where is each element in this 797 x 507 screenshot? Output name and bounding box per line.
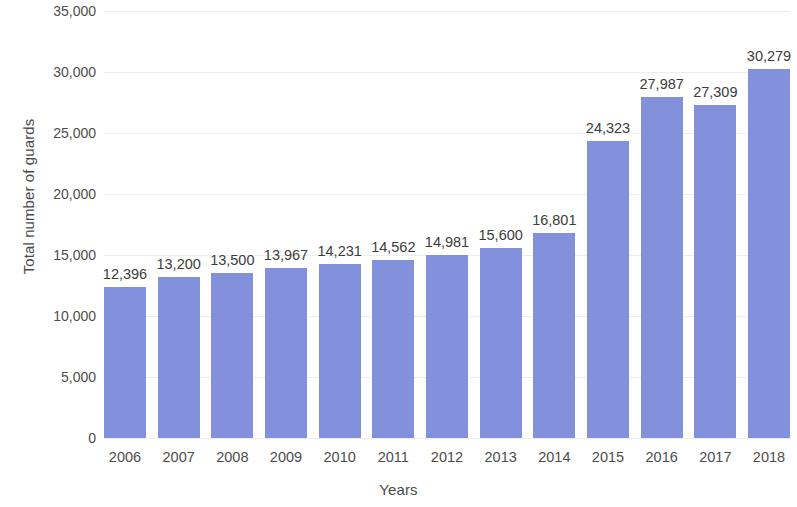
bar-column[interactable]: 14,231 (319, 264, 361, 438)
bar[interactable] (480, 248, 522, 438)
bar[interactable] (641, 97, 683, 438)
bar[interactable] (104, 287, 146, 438)
bar-value-label: 24,323 (573, 120, 643, 136)
y-axis-tick-label: 20,000 (8, 186, 96, 202)
bar-column[interactable]: 27,987 (641, 97, 683, 438)
bar[interactable] (319, 264, 361, 438)
bar[interactable] (158, 277, 200, 438)
bar[interactable] (694, 105, 736, 438)
bar[interactable] (211, 273, 253, 438)
bar-value-label: 30,279 (734, 48, 797, 64)
bar-column[interactable]: 13,967 (265, 268, 307, 438)
bar[interactable] (533, 233, 575, 438)
gridline (104, 438, 790, 439)
y-axis-tick-label: 35,000 (8, 3, 96, 19)
y-axis-tick-label: 5,000 (8, 369, 96, 385)
x-axis-title: Years (0, 481, 797, 498)
y-axis-tick-label: 30,000 (8, 64, 96, 80)
y-axis-tick-label: 15,000 (8, 247, 96, 263)
plot-area: 12,39613,20013,50013,96714,23114,56214,9… (104, 11, 790, 438)
bar-column[interactable]: 24,323 (587, 141, 629, 438)
bar-value-label: 27,309 (680, 84, 750, 100)
gridline (104, 72, 790, 73)
bar-column[interactable]: 14,981 (426, 255, 468, 438)
bar[interactable] (587, 141, 629, 438)
bar[interactable] (426, 255, 468, 438)
bar-column[interactable]: 12,396 (104, 287, 146, 438)
bar-column[interactable]: 14,562 (372, 260, 414, 438)
bar[interactable] (265, 268, 307, 438)
y-axis-tick-label: 25,000 (8, 125, 96, 141)
y-axis-tick-label: 0 (8, 430, 96, 446)
bar-column[interactable]: 30,279 (748, 69, 790, 438)
y-axis-tick-label: 10,000 (8, 308, 96, 324)
gridline (104, 11, 790, 12)
bar[interactable] (748, 69, 790, 438)
y-axis-tick-labels: 05,00010,00015,00020,00025,00030,00035,0… (0, 11, 96, 438)
bar-column[interactable]: 16,801 (533, 233, 575, 438)
gridline (104, 133, 790, 134)
bar-column[interactable]: 15,600 (480, 248, 522, 438)
bar[interactable] (372, 260, 414, 438)
bar-value-label: 16,801 (519, 212, 589, 228)
gridline (104, 194, 790, 195)
bar-column[interactable]: 27,309 (694, 105, 736, 438)
bar-value-label: 15,600 (466, 227, 536, 243)
bar-chart: Total number of guards 05,00010,00015,00… (0, 0, 797, 507)
x-axis-tick-label: 2018 (734, 449, 797, 465)
bar-column[interactable]: 13,500 (211, 273, 253, 438)
bar-column[interactable]: 13,200 (158, 277, 200, 438)
